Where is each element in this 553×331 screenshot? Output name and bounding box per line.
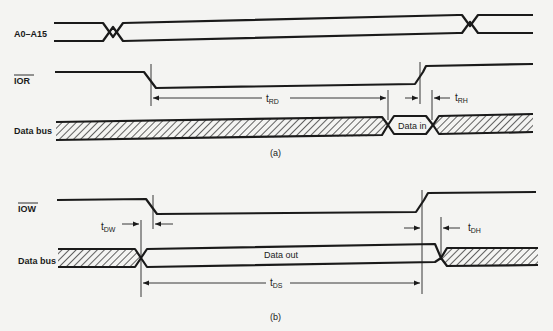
data-out-label: Data out [264,250,299,260]
part-b: IOW tDW Data bus Data out [18,190,538,322]
invalid-data-region [58,249,141,267]
iow-signal-label: IOW [18,203,38,214]
timing-diagram: A0–A15 IOR tRD tRH Dat [0,0,553,331]
caption-b: (b) [270,312,281,322]
t-ds-label: tDS [270,277,283,289]
data-bus-label-a: Data bus [14,126,52,136]
svg-text:IOW: IOW [18,204,37,214]
part-a: A0–A15 IOR tRD tRH Dat [14,15,533,158]
data-bus-waveform-b: Data out [58,244,538,267]
ior-signal-label: IOR [14,75,34,86]
t-rh-dimension: tRH [405,92,468,104]
t-dh-dimension: tDH [404,222,481,234]
t-ds-dimension: tDS [143,277,420,289]
t-dh-label: tDH [468,222,481,234]
t-dw-dimension: tDW [101,221,173,233]
invalid-data-region [433,114,533,134]
t-rd-dimension: tRD [153,93,386,105]
data-bus-label-b: Data bus [18,256,56,266]
t-dw-label: tDW [101,221,116,233]
t-rh-label: tRH [455,92,468,104]
invalid-data-region [441,248,538,266]
caption-a: (a) [270,148,281,158]
iow-waveform [57,192,536,214]
address-bus-label: A0–A15 [14,29,47,39]
t-rd-label: tRD [266,93,279,105]
data-in-label: Data in [398,121,427,131]
svg-text:IOR: IOR [14,76,31,86]
address-bus-waveform [54,15,533,41]
data-bus-waveform-a: Data in [56,114,533,140]
ior-waveform [55,64,533,88]
